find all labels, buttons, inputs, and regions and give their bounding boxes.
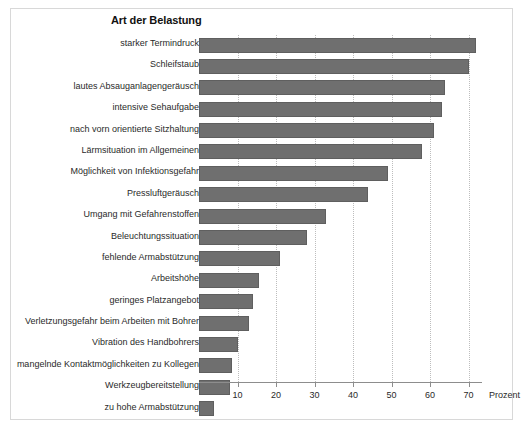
bar-row: Pressluftgeräusch — [11, 185, 514, 206]
x-axis-tick — [276, 382, 277, 387]
bar-row: zu hohe Armabstützung — [11, 399, 514, 420]
bar-category-label: lautes Absauganlagengeräusch — [73, 81, 199, 92]
bar-row: Schleifstaub — [11, 56, 514, 77]
x-axis-tick — [238, 382, 239, 387]
x-axis-tick-label: 20 — [271, 390, 281, 400]
x-axis-tick — [469, 382, 470, 387]
bar-rows: starker TermindruckSchleifstaublautes Ab… — [11, 35, 514, 420]
bar — [199, 316, 249, 331]
x-axis-tick-label: 30 — [309, 390, 319, 400]
chart-frame: Art der Belastung starker TermindruckSch… — [10, 8, 513, 420]
bar-category-label: zu hohe Armabstützung — [104, 402, 199, 413]
bar — [199, 59, 469, 74]
bar-category-label: Lärmsituation im Allgemeinen — [81, 145, 199, 156]
bar-category-label: Beleuchtungssituation — [111, 231, 199, 242]
bar-row: Beleuchtungssituation — [11, 228, 514, 249]
bar-category-label: Möglichkeit von Infektionsgefahr — [70, 166, 199, 177]
x-axis-line — [199, 382, 482, 383]
bar — [199, 273, 259, 288]
bar-row: Umgang mit Gefahrenstoffen — [11, 206, 514, 227]
bar — [199, 38, 476, 53]
x-axis-unit-label: Prozent — [489, 390, 520, 400]
bar — [199, 294, 253, 309]
bar-category-label: fehlende Armabstützung — [102, 252, 199, 263]
bar — [199, 80, 445, 95]
bar-category-label: starker Termindruck — [120, 38, 199, 49]
bar-row: nach vorn orientierte Sitzhaltung — [11, 121, 514, 142]
bar-row: geringes Platzangebot — [11, 292, 514, 313]
bar — [199, 251, 280, 266]
bar-category-label: geringes Platzangebot — [109, 295, 199, 306]
bar — [199, 187, 368, 202]
x-axis-tick-label: 60 — [425, 390, 435, 400]
bar — [199, 144, 422, 159]
bar-row: Lärmsituation im Allgemeinen — [11, 142, 514, 163]
bar-category-label: Schleifstaub — [150, 59, 199, 70]
x-axis-tick — [353, 382, 354, 387]
bar — [199, 230, 307, 245]
bar-row: Werkzeugbereitstellung — [11, 377, 514, 398]
bar — [199, 102, 442, 117]
x-axis-tick-label: 50 — [386, 390, 396, 400]
bar — [199, 209, 326, 224]
bar-category-label: Vibration des Handbohrers — [92, 337, 199, 348]
bar-row: intensive Sehaufgabe — [11, 99, 514, 120]
bar-category-label: nach vorn orientierte Sitzhaltung — [70, 124, 199, 135]
plot-area: starker TermindruckSchleifstaublautes Ab… — [11, 35, 514, 395]
bar — [199, 166, 388, 181]
x-axis-tick — [430, 382, 431, 387]
bar-row: Möglichkeit von Infektionsgefahr — [11, 163, 514, 184]
bar — [199, 358, 232, 373]
x-axis-tick — [392, 382, 393, 387]
bar-category-label: Pressluftgeräusch — [127, 188, 199, 199]
bar-row: Arbeitshöhe — [11, 270, 514, 291]
x-axis-tick-label: 70 — [463, 390, 473, 400]
bar-category-label: intensive Sehaufgabe — [112, 102, 199, 113]
x-axis-tick-label: 40 — [348, 390, 358, 400]
x-axis-tick — [315, 382, 316, 387]
bar — [199, 123, 434, 138]
bar-row: fehlende Armabstützung — [11, 249, 514, 270]
bar-category-label: mangelnde Kontaktmöglichkeiten zu Kolleg… — [17, 359, 199, 370]
bar — [199, 337, 238, 352]
bar-row: starker Termindruck — [11, 35, 514, 56]
bar-category-label: Verletzungsgefahr beim Arbeiten mit Bohr… — [25, 316, 199, 327]
bar-row: lautes Absauganlagengeräusch — [11, 78, 514, 99]
bar-category-label: Werkzeugbereitstellung — [105, 380, 199, 391]
bar-category-label: Umgang mit Gefahrenstoffen — [84, 209, 199, 220]
bar-category-label: Arbeitshöhe — [151, 273, 199, 284]
chart-title: Art der Belastung — [111, 14, 202, 26]
x-axis-tick-label: 10 — [232, 390, 242, 400]
bar — [199, 401, 214, 416]
bar-row: mangelnde Kontaktmöglichkeiten zu Kolleg… — [11, 356, 514, 377]
bar-row: Verletzungsgefahr beim Arbeiten mit Bohr… — [11, 313, 514, 334]
bar-row: Vibration des Handbohrers — [11, 334, 514, 355]
